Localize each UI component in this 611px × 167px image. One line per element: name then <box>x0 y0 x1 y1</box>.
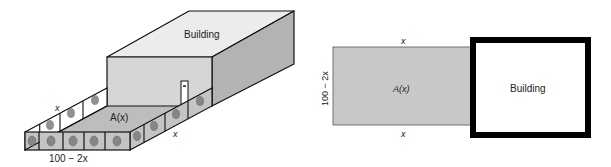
plan-top-label: x <box>400 36 406 46</box>
area-label-3d: A(x) <box>110 112 128 123</box>
plan-left-label: 100 − 2x <box>320 71 330 106</box>
side-label-left-3d: x <box>54 103 60 113</box>
building-3d <box>107 11 294 106</box>
plan-area-label: A(x) <box>392 84 410 94</box>
door-window <box>183 85 186 87</box>
side-label-right-3d: x <box>172 129 178 139</box>
plan-building-label: Building <box>510 83 546 94</box>
plan-bottom-label: x <box>400 129 406 139</box>
building-label-3d: Building <box>184 29 220 40</box>
perspective-diagram: Building A(x) x x 100 − 2x x x 100 − 2x … <box>0 0 611 167</box>
front-label-3d: 100 − 2x <box>49 153 88 164</box>
